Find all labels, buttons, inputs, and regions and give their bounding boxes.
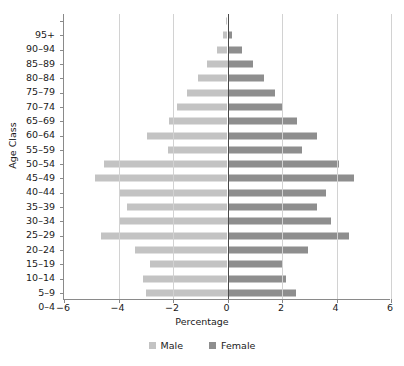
x-axis-labels: −6−4−20246 — [63, 302, 390, 316]
chart-legend: Male Female — [0, 340, 404, 351]
y-axis-tick — [60, 293, 64, 294]
y-axis-tick-label: 50–54 — [26, 159, 55, 169]
plot-area — [63, 14, 390, 300]
y-axis-tick-label: 90–94 — [26, 44, 55, 54]
y-axis-tick — [60, 78, 64, 79]
bar-male — [143, 275, 227, 282]
bar-female — [228, 118, 297, 125]
y-axis-tick — [60, 21, 64, 22]
y-axis-tick — [60, 207, 64, 208]
y-axis-tick — [60, 279, 64, 280]
bar-male — [101, 232, 228, 239]
x-axis-tick-label: 0 — [223, 302, 229, 313]
y-axis-tick — [60, 107, 64, 108]
y-axis-tick-label: 60–64 — [26, 130, 55, 140]
bar-female — [228, 175, 355, 182]
legend-item-female: Female — [209, 340, 255, 351]
bar-female — [228, 46, 243, 53]
y-axis-tick — [60, 35, 64, 36]
bar-male — [127, 204, 228, 211]
bar-female — [228, 75, 265, 82]
bar-female — [228, 275, 287, 282]
legend-item-male: Male — [149, 340, 184, 351]
y-axis-title: Age Class — [7, 116, 18, 176]
x-axis-tick-label: −6 — [56, 302, 70, 313]
legend-swatch-male-icon — [149, 342, 156, 349]
gridline — [173, 14, 174, 299]
zero-axis-line — [228, 14, 229, 299]
y-axis-tick — [60, 178, 64, 179]
bar-female — [228, 146, 303, 153]
x-axis-tick-label: 6 — [387, 302, 393, 313]
y-axis-tick — [60, 121, 64, 122]
bar-male — [187, 89, 228, 96]
bar-female — [228, 218, 332, 225]
y-axis-tick — [60, 221, 64, 222]
y-axis-tick-label: 80–84 — [26, 73, 55, 83]
y-axis-tick — [60, 236, 64, 237]
y-axis-tick — [60, 136, 64, 137]
y-axis-tick-label: 65–69 — [26, 116, 55, 126]
y-axis-tick-label: 85–89 — [26, 59, 55, 69]
y-axis-tick — [60, 193, 64, 194]
x-axis-tick-label: −4 — [110, 302, 124, 313]
bar-female — [228, 132, 318, 139]
bar-male — [198, 75, 228, 82]
y-axis-tick — [60, 50, 64, 51]
y-axis-tick-label: 25–29 — [26, 230, 55, 240]
legend-label-male: Male — [161, 340, 184, 351]
bar-male — [150, 261, 228, 268]
x-axis-tick-label: 4 — [332, 302, 338, 313]
bar-male — [146, 289, 228, 296]
bar-female — [228, 289, 296, 296]
bar-female — [228, 261, 284, 268]
y-axis-tick-label: 45–49 — [26, 173, 55, 183]
gridline — [119, 14, 120, 299]
y-axis-tick-label: 5–9 — [38, 288, 55, 298]
y-axis-tick-label: 0–4 — [38, 302, 55, 312]
bar-male — [168, 146, 228, 153]
legend-swatch-female-icon — [209, 342, 216, 349]
bar-female — [228, 246, 308, 253]
y-axis-tick — [60, 64, 64, 65]
y-axis-tick — [60, 150, 64, 151]
gridline — [391, 14, 392, 299]
y-axis-tick-label: 95+ — [35, 30, 55, 40]
bar-female — [228, 204, 318, 211]
y-axis-tick — [60, 164, 64, 165]
bar-female — [228, 189, 326, 196]
bar-male — [177, 103, 227, 110]
bar-male — [207, 61, 227, 68]
bar-female — [228, 103, 283, 110]
bar-female — [228, 61, 254, 68]
y-axis-tick-label: 15–19 — [26, 259, 55, 269]
y-axis-tick-label: 55–59 — [26, 145, 55, 155]
bar-male — [217, 46, 228, 53]
bar-female — [228, 89, 276, 96]
y-axis-tick — [60, 264, 64, 265]
bar-female — [228, 161, 340, 168]
x-axis-tick-label: −2 — [165, 302, 179, 313]
gridline — [337, 14, 338, 299]
y-axis-tick-label: 75–79 — [26, 87, 55, 97]
y-axis-tick — [60, 93, 64, 94]
y-axis-tick-label: 20–24 — [26, 245, 55, 255]
y-axis-tick-label: 30–34 — [26, 216, 55, 226]
x-axis-tick-label: 2 — [278, 302, 284, 313]
bar-male — [95, 175, 227, 182]
y-axis-tick-label: 70–74 — [26, 102, 55, 112]
bar-male — [104, 161, 228, 168]
gridline — [282, 14, 283, 299]
y-axis-tick-label: 35–39 — [26, 202, 55, 212]
y-axis-tick-label: 40–44 — [26, 187, 55, 197]
bar-male — [147, 132, 227, 139]
y-axis-tick-label: 10–14 — [26, 273, 55, 283]
bar-female — [228, 232, 349, 239]
legend-label-female: Female — [221, 340, 255, 351]
y-axis-tick — [60, 250, 64, 251]
x-axis-title: Percentage — [0, 316, 404, 327]
population-pyramid-chart: 95+90–9485–8980–8475–7970–7465–6960–6455… — [0, 0, 404, 366]
bar-male — [169, 118, 228, 125]
bar-male — [135, 246, 228, 253]
